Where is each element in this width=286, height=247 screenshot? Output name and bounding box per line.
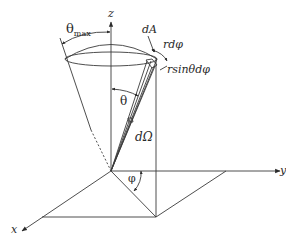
z-axis-label: z [108, 8, 114, 19]
theta-max-symbol: θ [66, 21, 74, 36]
r-dphi-label: rdφ [163, 39, 183, 50]
r-sin-theta-dphi-pointer [160, 66, 167, 70]
pencil-line-2 [111, 61, 151, 171]
cone-left-edge [60, 38, 91, 130]
dA-label: dA [142, 24, 157, 35]
projection-line-diagonal [156, 171, 226, 217]
pencil-line-4 [111, 67, 152, 171]
r-sin-theta-dphi-label: rsinθdφ [167, 64, 210, 75]
phi-label: φ [128, 173, 136, 184]
theta-max-subscript: max [74, 29, 91, 38]
dA-pointer [148, 36, 154, 52]
x-axis [22, 171, 111, 231]
pencil-line-1 [111, 61, 147, 171]
cone-left-edge-dashed [91, 130, 111, 171]
solid-angle-diagram [0, 0, 286, 247]
theta-label: θ [120, 95, 127, 107]
x-axis-label: x [11, 224, 17, 235]
y-axis-label: y [280, 165, 286, 176]
d-omega-label: dΩ [135, 131, 153, 143]
theta-max-label: θmax [66, 22, 91, 38]
